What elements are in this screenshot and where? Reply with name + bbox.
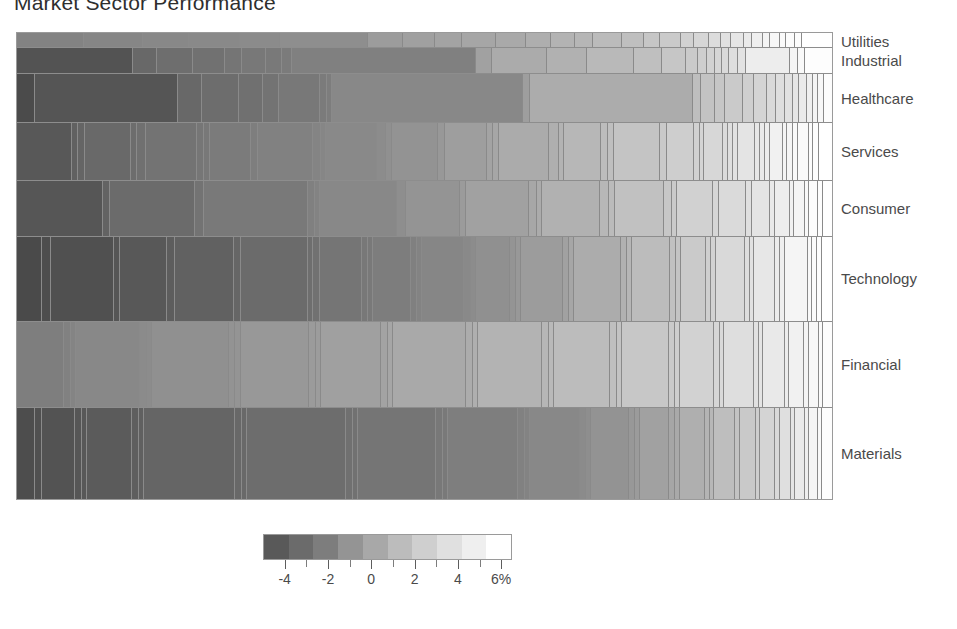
treemap-cell[interactable] bbox=[740, 408, 757, 500]
treemap-cell[interactable] bbox=[195, 181, 204, 235]
treemap-cell[interactable] bbox=[770, 123, 783, 180]
treemap-cell[interactable] bbox=[707, 48, 715, 73]
treemap-cell[interactable] bbox=[715, 74, 725, 122]
treemap-cell[interactable] bbox=[681, 33, 694, 47]
treemap-cell[interactable] bbox=[478, 322, 542, 407]
treemap-cell[interactable] bbox=[542, 181, 601, 235]
treemap-cell[interactable] bbox=[235, 408, 242, 500]
treemap-cell[interactable] bbox=[84, 33, 143, 47]
treemap-cell[interactable] bbox=[819, 123, 832, 180]
treemap-cell[interactable] bbox=[292, 48, 476, 73]
treemap-cell[interactable] bbox=[640, 408, 669, 500]
treemap-cell[interactable] bbox=[798, 123, 809, 180]
treemap-cell[interactable] bbox=[809, 322, 819, 407]
treemap-cell[interactable] bbox=[621, 237, 628, 321]
treemap-cell[interactable] bbox=[137, 123, 146, 180]
treemap-cell[interactable] bbox=[496, 33, 526, 47]
treemap-cell[interactable] bbox=[167, 237, 175, 321]
treemap-cell[interactable] bbox=[530, 74, 693, 122]
treemap-cell[interactable] bbox=[132, 408, 139, 500]
treemap-cell[interactable] bbox=[622, 33, 644, 47]
treemap-cell[interactable] bbox=[805, 48, 831, 73]
treemap-cell[interactable] bbox=[17, 408, 35, 500]
treemap-cell[interactable] bbox=[564, 123, 601, 180]
treemap-cell[interactable] bbox=[823, 322, 832, 407]
treemap-cell[interactable] bbox=[554, 322, 610, 407]
treemap-cell[interactable] bbox=[785, 237, 809, 321]
treemap-cell[interactable] bbox=[309, 322, 316, 407]
treemap-cell[interactable] bbox=[587, 48, 633, 73]
treemap-cell[interactable] bbox=[332, 74, 524, 122]
treemap-cell[interactable] bbox=[809, 408, 817, 500]
treemap-cell[interactable] bbox=[563, 237, 570, 321]
treemap-cell[interactable] bbox=[280, 33, 368, 47]
treemap-cell[interactable] bbox=[767, 74, 775, 122]
treemap-cell[interactable] bbox=[704, 123, 722, 180]
treemap-cell[interactable] bbox=[790, 48, 798, 73]
treemap-cell[interactable] bbox=[789, 322, 804, 407]
treemap-cell[interactable] bbox=[87, 408, 133, 500]
treemap-cell[interactable] bbox=[76, 322, 140, 407]
treemap-cell[interactable] bbox=[239, 74, 263, 122]
treemap-cell[interactable] bbox=[225, 48, 243, 73]
treemap-cell[interactable] bbox=[373, 237, 411, 321]
treemap-cell[interactable] bbox=[35, 408, 42, 500]
treemap-cell[interactable] bbox=[157, 48, 193, 73]
treemap-cell[interactable] bbox=[368, 33, 403, 47]
treemap-cell[interactable] bbox=[17, 74, 35, 122]
treemap-cell[interactable] bbox=[701, 74, 716, 122]
treemap-cell[interactable] bbox=[448, 408, 518, 500]
treemap-cell[interactable] bbox=[308, 181, 315, 235]
treemap-cell[interactable] bbox=[75, 408, 82, 500]
treemap-cell[interactable] bbox=[754, 74, 767, 122]
treemap-cell[interactable] bbox=[677, 181, 713, 235]
treemap-cell[interactable] bbox=[492, 48, 548, 73]
treemap-cell[interactable] bbox=[114, 237, 121, 321]
treemap-cell[interactable] bbox=[85, 123, 131, 180]
treemap-cell[interactable] bbox=[411, 237, 418, 321]
treemap-cell[interactable] bbox=[476, 48, 492, 73]
treemap-cell[interactable] bbox=[775, 181, 789, 235]
treemap-cell[interactable] bbox=[42, 237, 50, 321]
treemap-cell[interactable] bbox=[729, 48, 739, 73]
treemap-cell[interactable] bbox=[320, 237, 362, 321]
treemap-cell[interactable] bbox=[823, 181, 832, 235]
treemap-cell[interactable] bbox=[822, 408, 832, 500]
treemap-cell[interactable] bbox=[17, 33, 84, 47]
treemap-cell[interactable] bbox=[202, 74, 239, 122]
treemap-cell[interactable] bbox=[731, 33, 744, 47]
treemap-cell[interactable] bbox=[780, 33, 787, 47]
treemap-cell[interactable] bbox=[593, 33, 622, 47]
treemap-cell[interactable] bbox=[724, 322, 754, 407]
treemap-cell[interactable] bbox=[189, 33, 239, 47]
treemap-cell[interactable] bbox=[530, 408, 580, 500]
treemap-cell[interactable] bbox=[574, 237, 620, 321]
treemap-cell[interactable] bbox=[738, 48, 746, 73]
treemap-cell[interactable] bbox=[17, 48, 133, 73]
treemap-cell[interactable] bbox=[120, 237, 166, 321]
treemap-cell[interactable] bbox=[802, 33, 831, 47]
treemap-cell[interactable] bbox=[547, 48, 587, 73]
treemap-cell[interactable] bbox=[725, 74, 743, 122]
treemap-cell[interactable] bbox=[686, 48, 697, 73]
treemap-cell[interactable] bbox=[279, 74, 320, 122]
treemap-cell[interactable] bbox=[662, 48, 686, 73]
treemap-cell[interactable] bbox=[438, 123, 445, 180]
treemap-cell[interactable] bbox=[600, 181, 609, 235]
treemap-cell[interactable] bbox=[320, 181, 397, 235]
treemap-cell[interactable] bbox=[809, 181, 818, 235]
treemap-cell[interactable] bbox=[393, 322, 466, 407]
treemap-cell[interactable] bbox=[760, 408, 775, 500]
treemap-cell[interactable] bbox=[17, 237, 42, 321]
treemap-cell[interactable] bbox=[193, 48, 225, 73]
treemap-cell[interactable] bbox=[521, 237, 563, 321]
treemap-cell[interactable] bbox=[795, 33, 803, 47]
treemap-cell[interactable] bbox=[795, 408, 805, 500]
treemap-cell[interactable] bbox=[681, 237, 706, 321]
treemap-cell[interactable] bbox=[614, 123, 660, 180]
treemap-cell[interactable] bbox=[146, 123, 197, 180]
treemap-cell[interactable] bbox=[499, 123, 550, 180]
treemap-cell[interactable] bbox=[140, 322, 147, 407]
treemap-cell[interactable] bbox=[709, 33, 721, 47]
treemap-cell[interactable] bbox=[78, 123, 85, 180]
